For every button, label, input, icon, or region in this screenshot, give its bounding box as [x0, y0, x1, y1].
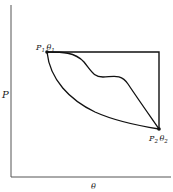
wavy-path [47, 52, 159, 129]
rectangular-path [47, 52, 159, 129]
concave-path [47, 52, 159, 129]
state-2-point [157, 127, 161, 131]
y-axis-label: P [1, 89, 9, 100]
svg-text:P2θ2: P2θ2 [148, 134, 168, 144]
x-axis-label: θ [91, 182, 96, 191]
state-2-label: P2θ2 [148, 134, 168, 144]
svg-text:P1θ1: P1θ1 [35, 43, 55, 53]
state-1-label: P1θ1 [35, 43, 55, 53]
p-theta-diagram: P θ P1θ1 P2θ2 [0, 0, 173, 192]
